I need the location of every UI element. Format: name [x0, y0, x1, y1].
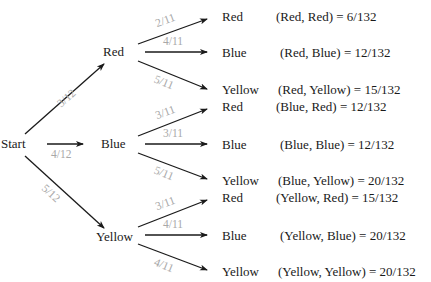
leaf-red-red: Red — [222, 10, 243, 24]
edge-start-yellow — [25, 156, 104, 228]
probability-tree-diagram: Start Red Blue Yellow 3/12 4/12 5/12 2/1… — [0, 0, 431, 282]
outcome-red-blue: (Red, Blue) = 12/132 — [280, 46, 391, 60]
prob-yellow-blue: 4/11 — [163, 218, 183, 230]
outcome-yellow-yellow: (Yellow, Yellow) = 20/132 — [278, 265, 416, 279]
node-yellow: Yellow — [96, 230, 133, 244]
prob-red-blue: 4/11 — [163, 35, 183, 47]
prob-start-blue: 4/12 — [51, 148, 71, 160]
leaf-yellow-yellow: Yellow — [222, 265, 259, 279]
outcome-yellow-blue: (Yellow, Blue) = 20/132 — [280, 229, 406, 243]
leaf-yellow-red: Red — [222, 191, 243, 205]
leaf-red-blue: Blue — [222, 46, 247, 60]
leaf-blue-yellow: Yellow — [222, 174, 259, 188]
leaf-yellow-blue: Blue — [222, 229, 247, 243]
node-blue: Blue — [101, 137, 126, 151]
leaf-red-yellow: Yellow — [222, 83, 259, 97]
outcome-red-yellow: (Red, Yellow) = 15/132 — [278, 83, 401, 97]
node-red: Red — [103, 45, 124, 59]
outcome-blue-red: (Blue, Red) = 12/132 — [276, 100, 387, 114]
node-start: Start — [1, 137, 26, 151]
outcome-yellow-red: (Yellow, Red) = 15/132 — [276, 191, 398, 205]
leaf-blue-blue: Blue — [222, 138, 247, 152]
outcome-red-red: (Red, Red) = 6/132 — [276, 10, 376, 24]
prob-blue-blue: 3/11 — [163, 127, 183, 139]
outcome-blue-blue: (Blue, Blue) = 12/132 — [280, 138, 394, 152]
leaf-blue-red: Red — [222, 100, 243, 114]
outcome-blue-yellow: (Blue, Yellow) = 20/132 — [278, 174, 404, 188]
